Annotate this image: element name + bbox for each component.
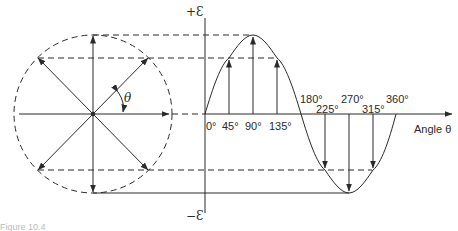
tick-label-90: 90° [245, 120, 262, 132]
theta-label: θ [124, 91, 132, 105]
emf-positive-label: +Ɛ [186, 5, 204, 19]
phasor-135 [38, 58, 93, 114]
tick-label-315: 315° [362, 103, 385, 115]
theta-arc [118, 92, 123, 112]
tick-label-225: 225° [316, 103, 339, 115]
phasor-225 [38, 114, 93, 170]
phasor-315 [93, 114, 148, 170]
angle-axis-label: Angle θ [414, 123, 451, 135]
phasor-origin [91, 112, 95, 116]
figure-caption: Figure 10.4 [0, 222, 46, 231]
tick-label-270: 270° [341, 93, 364, 105]
tick-label-360: 360° [386, 93, 409, 105]
phasor-45 [93, 58, 148, 114]
emf-negative-label: −Ɛ [186, 209, 204, 223]
sine-wave-diagram: +Ɛ −Ɛ θ 0° 45° 90° 135° 180° 225° 270° 3… [0, 0, 458, 231]
tick-label-135: 135° [269, 120, 292, 132]
tick-label-0: 0° [206, 120, 217, 132]
tick-label-45: 45° [222, 120, 239, 132]
